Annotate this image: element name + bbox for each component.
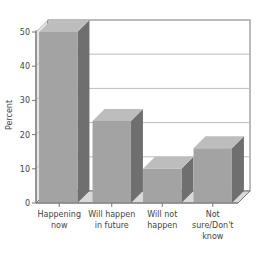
- bar-side: [131, 109, 143, 203]
- x-tick-label: in future: [95, 221, 129, 230]
- y-tick-label: 50: [20, 28, 30, 37]
- bar-front: [194, 148, 232, 203]
- y-axis-title: Percent: [5, 100, 14, 130]
- x-tick-label: Will not: [147, 210, 177, 219]
- y-tick-label: 0: [25, 199, 30, 208]
- y-tick-label: 10: [20, 165, 30, 174]
- y-tick-label: 20: [20, 131, 30, 140]
- bar: [143, 157, 193, 203]
- x-tick-label: Will happen: [88, 210, 135, 219]
- bar: [194, 136, 244, 203]
- x-tick-label: know: [202, 232, 224, 241]
- bar-front: [39, 32, 77, 203]
- x-tick-label: Not: [206, 210, 220, 219]
- x-tick-label: happen: [147, 221, 177, 230]
- bar-front: [93, 121, 131, 203]
- y-tick-label: 40: [20, 62, 30, 71]
- bar-front: [143, 169, 181, 203]
- bar: [39, 20, 89, 203]
- bar: [93, 109, 143, 203]
- bar-chart: 01020304050 HappeningnowWill happenin fu…: [0, 0, 268, 265]
- x-tick-label: Happening: [38, 210, 81, 219]
- bar-side: [77, 20, 89, 203]
- x-axis-labels: HappeningnowWill happenin futureWill not…: [38, 203, 234, 241]
- y-tick-label: 30: [20, 96, 30, 105]
- x-tick-label: now: [51, 221, 68, 230]
- y-axis-ticks: 01020304050: [20, 28, 36, 208]
- x-tick-label: sure/Don't: [192, 221, 233, 230]
